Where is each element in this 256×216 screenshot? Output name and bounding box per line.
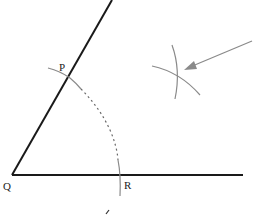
ray-qp: [12, 0, 112, 175]
label-r: R: [124, 179, 132, 191]
label-q: Q: [3, 180, 11, 192]
label-p: P: [59, 61, 65, 73]
arc-q-dashed: [81, 89, 118, 160]
pointer-arrow-head: [184, 61, 197, 70]
arc-q-solid-bottom: [118, 160, 120, 196]
small-mark: [106, 210, 109, 214]
angle-construction-diagram: P Q R: [0, 0, 256, 216]
arc-from-p: [172, 45, 177, 99]
pointer-arrow-shaft: [190, 41, 252, 67]
